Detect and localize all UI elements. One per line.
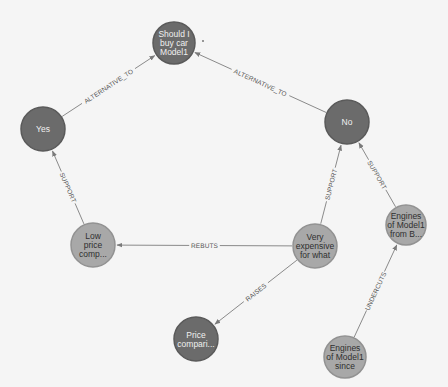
graph-canvas[interactable]: ALTERNATIVE_TOALTERNATIVE_TOSUPPORTSUPPO… [0, 0, 448, 387]
edge-label: UNDERCUTS [364, 270, 388, 311]
node-label: compari... [177, 339, 214, 349]
node-engines-from[interactable]: Enginesof Model1from B... [386, 205, 426, 245]
node-yes[interactable]: Yes [21, 107, 65, 151]
edge-line [268, 260, 297, 283]
node-label: for what [300, 250, 331, 260]
edge-raises[interactable]: RAISES [215, 260, 297, 324]
edge-arrow-line [335, 145, 341, 167]
edge-alternative-to[interactable]: ALTERNATIVE_TO [62, 56, 155, 117]
edge-undercuts[interactable]: UNDERCUTS [354, 245, 397, 337]
edge-arrow-line [195, 53, 232, 70]
edge-line [75, 203, 84, 223]
edge-arrow-line [215, 302, 244, 325]
nodes-layer: Should Ibuy carModel1YesNoLowpricecomp..… [21, 22, 426, 378]
argument-graph[interactable]: ALTERNATIVE_TOALTERNATIVE_TOSUPPORTSUPPO… [0, 0, 448, 387]
node-price-compari[interactable]: Pricecompari... [174, 317, 218, 361]
node-label: comp... [79, 249, 107, 259]
edge-label: REBUTS [191, 242, 219, 249]
node-label: Yes [36, 124, 50, 134]
edge-arrow-line [359, 143, 369, 160]
edge-label: RAISES [244, 282, 268, 303]
node-engines-since[interactable]: Enginesof Model1since [324, 336, 366, 378]
node-label: No [342, 117, 353, 127]
node-low-price[interactable]: Lowpricecomp... [71, 223, 115, 267]
stray-dot [202, 40, 204, 42]
edge-support[interactable]: SUPPORT [52, 151, 83, 224]
edges-layer: ALTERNATIVE_TOALTERNATIVE_TOSUPPORTSUPPO… [52, 53, 396, 337]
edge-label: ALTERNATIVE_TO [233, 67, 289, 98]
edge-label: SUPPORT [59, 171, 78, 203]
node-question[interactable]: Should Ibuy carModel1 [153, 22, 195, 64]
edge-arrow-line [384, 245, 396, 272]
edge-label: SUPPORT [323, 168, 338, 201]
node-label: since [335, 361, 355, 371]
node-label: from B... [390, 229, 422, 239]
edge-line [289, 96, 326, 113]
edge-line [321, 201, 327, 223]
edge-support[interactable]: SUPPORT [359, 143, 396, 207]
edge-line [62, 103, 82, 116]
edge-alternative-to[interactable]: ALTERNATIVE_TO [195, 53, 326, 113]
edge-line [354, 310, 366, 337]
edge-label: SUPPORT [366, 159, 388, 190]
edge-support[interactable]: SUPPORT [321, 145, 341, 223]
node-no[interactable]: No [325, 100, 369, 144]
edge-rebuts[interactable]: REBUTS [117, 242, 292, 249]
edge-arrow-line [52, 151, 61, 171]
edge-arrow-line [135, 56, 155, 69]
edge-label: ALTERNATIVE_TO [83, 67, 135, 105]
edge-line [386, 190, 396, 207]
node-very-expensive[interactable]: Veryexpensivefor what [293, 224, 337, 268]
node-label: Model1 [160, 47, 188, 57]
